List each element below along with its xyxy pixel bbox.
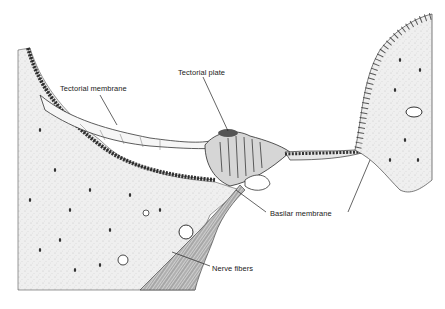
label-nerve-fibers: Nerve fibers bbox=[212, 264, 253, 273]
label-tectorial-membrane: Tectorial membrane bbox=[60, 84, 127, 93]
label-basilar-membrane: Basilar membrane bbox=[270, 209, 332, 218]
vessel bbox=[406, 107, 422, 117]
vessel bbox=[179, 225, 193, 239]
tunnel-space bbox=[245, 175, 270, 190]
cochlea-illustration bbox=[0, 0, 445, 309]
vessel bbox=[118, 255, 128, 265]
label-tectorial-plate: Tectorial plate bbox=[178, 68, 225, 77]
